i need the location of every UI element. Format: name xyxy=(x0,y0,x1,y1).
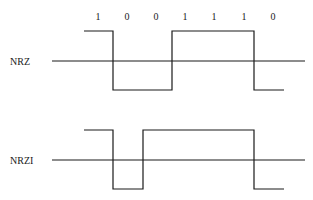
encoding-diagram: 1 0 0 1 1 1 0 NRZ NRZI xyxy=(0,0,313,200)
bit-labels: 1 0 0 1 1 1 0 xyxy=(96,11,276,22)
bit-label: 0 xyxy=(154,11,159,22)
bit-label: 0 xyxy=(271,11,276,22)
bit-label: 1 xyxy=(212,11,217,22)
bit-label: 1 xyxy=(183,11,188,22)
bit-label: 1 xyxy=(242,11,247,22)
nrzi-label: NRZI xyxy=(10,155,33,166)
bit-label: 1 xyxy=(96,11,101,22)
nrzi-signal: NRZI xyxy=(10,130,305,189)
bit-label: 0 xyxy=(125,11,130,22)
nrz-signal: NRZ xyxy=(10,31,305,90)
nrz-label: NRZ xyxy=(10,56,30,67)
